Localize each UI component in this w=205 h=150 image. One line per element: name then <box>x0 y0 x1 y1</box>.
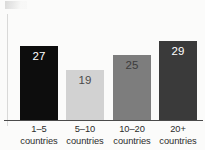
bar-1-5-countries: 27 <box>20 46 58 121</box>
category-label-line1-3: 20+ <box>147 124 205 136</box>
bar-5-10-countries: 19 <box>66 70 104 121</box>
bar-chart-figure: 27 19 25 29 1–5 countries 5–10 countries… <box>0 0 205 150</box>
bar-value-label-1: 19 <box>66 75 104 87</box>
x-axis-category-labels: 1–5 countries 5–10 countries 10–20 count… <box>0 124 205 150</box>
x-axis-baseline <box>4 120 203 121</box>
bar-10-20-countries: 25 <box>113 55 151 121</box>
bar-20-plus-countries: 29 <box>159 41 197 121</box>
bar-value-label-0: 27 <box>20 51 58 63</box>
bar-value-label-2: 25 <box>113 60 151 72</box>
category-label-line2-3: countries <box>147 136 205 148</box>
category-label-20-plus-countries: 20+ countries <box>147 124 205 147</box>
plot-area: 27 19 25 29 <box>0 0 205 121</box>
bar-value-label-3: 29 <box>159 46 197 58</box>
